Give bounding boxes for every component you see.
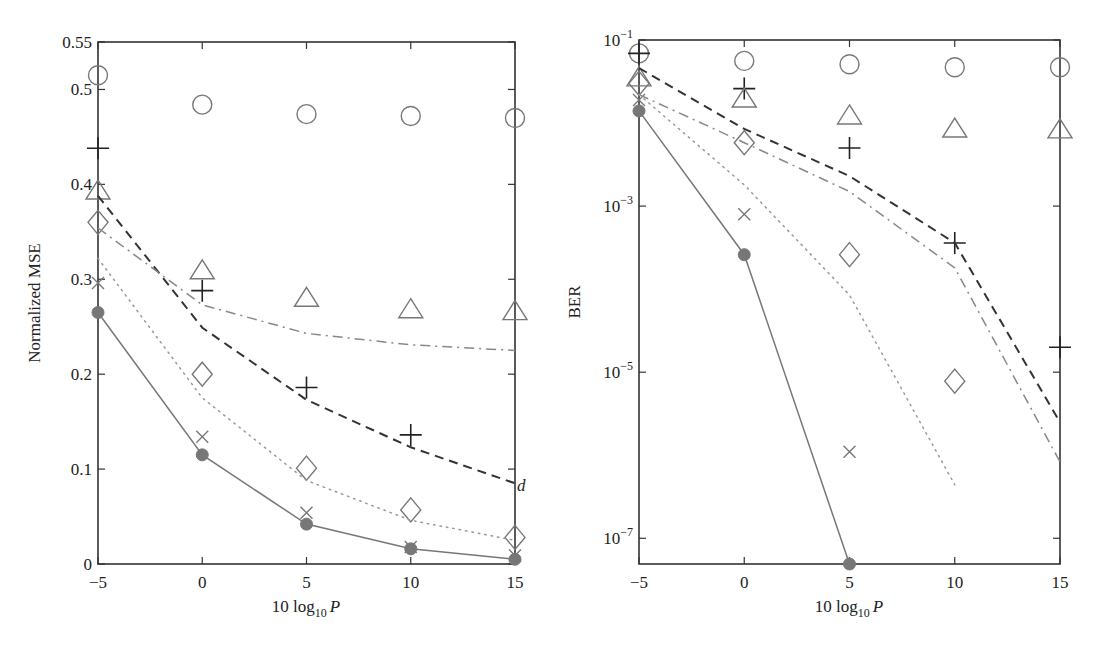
x-tick-label: 15 [1052,573,1069,592]
marker-filled-circle [633,105,645,117]
y-tick-label: 0 [84,555,93,574]
marker-filled-circle [405,543,417,555]
x-axis-label: 10 log10P [815,597,883,620]
y-tick-label: 0.5 [71,80,92,99]
marker-filled-circle [196,449,208,461]
marker-circle [840,55,859,74]
marker-circle [735,51,754,70]
y-tick-label: 0.4 [71,175,93,194]
y-axis-label: BER [565,285,584,319]
marker-diamond [192,362,212,386]
series-diamond-markers [629,71,965,393]
series-line [639,95,955,485]
x-tick-label: 15 [507,573,524,592]
marker-diamond [297,456,317,480]
series-dashed-line [639,68,1060,422]
marker-triangle [943,118,967,137]
y-tick-label: 0.1 [71,460,92,479]
ber-chart: −505101510−110−310−510−7BER10 log10P [565,27,1072,620]
marker-filled-circle [844,558,856,570]
y-tick-label: 10−5 [603,359,633,382]
marker-filled-circle [738,249,750,261]
series-dotted-line [98,258,515,540]
marker-x [196,431,208,443]
y-tick-label: 10−3 [603,193,633,216]
y-tick-label: 0.3 [71,270,92,289]
plot-frame [639,40,1060,564]
series-line [639,111,850,564]
x-tick-label: −5 [630,573,648,592]
marker-diamond [840,243,860,267]
marker-filled-circle [301,518,313,530]
series-triangle-markers [627,67,1072,138]
y-tick-label: 0.55 [62,33,92,52]
marker-plus [400,424,422,446]
x-tick-label: 5 [302,573,311,592]
series-line [98,258,515,540]
x-tick-label: 0 [740,573,749,592]
series-solid-filled-circle [92,306,521,565]
annotation-label: d [517,476,526,495]
x-axis-label: 10 log10P [272,597,340,620]
series-solid-filled-circle [633,105,856,570]
series-dashed-line [98,196,515,484]
marker-plus [628,42,650,64]
y-tick-label: 10−7 [603,525,633,548]
marker-circle [297,105,316,124]
figure: −505101500.10.20.30.40.50.55Normalized M… [0,0,1093,650]
marker-circle [401,107,420,126]
marker-diamond [401,498,421,522]
marker-triangle [399,299,423,318]
series-line [98,196,515,484]
marker-filled-circle [509,553,521,565]
x-tick-label: 10 [946,573,963,592]
x-tick-label: 10 [402,573,419,592]
marker-triangle [295,287,319,306]
x-tick-label: 0 [198,573,207,592]
mse-chart: −505101500.10.20.30.40.50.55Normalized M… [25,33,527,620]
y-tick-label: 0.2 [71,365,92,384]
y-tick-label: 10−1 [603,27,633,50]
marker-diamond [945,369,965,393]
marker-x [844,446,856,458]
series-line [639,68,1060,422]
series-plus-markers [87,137,422,446]
x-tick-label: 5 [845,573,854,592]
marker-triangle [190,260,214,279]
marker-triangle [838,105,862,124]
series-dotted-line [639,95,955,485]
series-line [98,228,515,351]
plot-frame [98,42,515,564]
marker-plus [1049,336,1071,358]
marker-circle [193,95,212,114]
marker-plus [87,137,109,159]
marker-x [301,507,313,519]
marker-circle [945,58,964,77]
y-axis-label: Normalized MSE [25,243,44,362]
x-tick-label: −5 [89,573,107,592]
marker-x [738,208,750,220]
series-circle-markers [89,66,525,128]
marker-filled-circle [92,306,104,318]
series-triangle-markers [86,180,527,320]
series-plus-markers [628,42,1071,358]
marker-plus [839,137,861,159]
series-circle-markers [630,44,1070,77]
series-dashdot-line [98,228,515,351]
